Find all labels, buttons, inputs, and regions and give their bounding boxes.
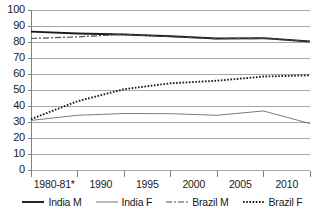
x-tick-label: 2010 (252, 179, 322, 190)
legend-swatch-dotted-icon (243, 197, 265, 207)
y-tick-label: 10 (1, 148, 25, 159)
legend-item-india-m[interactable]: India M (22, 197, 81, 208)
y-tick-label: 30 (1, 116, 25, 127)
axis-lines (28, 10, 31, 176)
legend-label: India F (122, 197, 153, 208)
y-tick-label: 20 (1, 132, 25, 143)
x-axis-ticks (31, 171, 310, 177)
y-tick-label: 50 (1, 84, 25, 95)
y-tick-label: 100 (1, 4, 25, 15)
legend-label: India M (48, 197, 81, 208)
y-tick-label: 70 (1, 52, 25, 63)
legend-swatch-solid-thin-icon (96, 197, 118, 207)
y-tick-label: 0 (1, 164, 25, 175)
y-tick-label: 80 (1, 36, 25, 47)
legend-label: Brazil M (192, 197, 228, 208)
data-series-group (31, 32, 310, 124)
legend-label: Brazil F (269, 197, 303, 208)
legend-item-brazil-f[interactable]: Brazil F (243, 197, 303, 208)
y-tick-label: 60 (1, 68, 25, 79)
legend-item-india-f[interactable]: India F (96, 197, 153, 208)
y-tick-label: 40 (1, 100, 25, 111)
y-tick-label: 90 (1, 20, 25, 31)
line-chart: 1009080706050403020100 1980-81*199019952… (0, 0, 325, 212)
legend-swatch-dash-dot-icon (166, 197, 188, 207)
legend-swatch-solid-thick-icon (22, 197, 44, 207)
chart-legend: India MIndia FBrazil MBrazil F (0, 192, 325, 212)
legend-item-brazil-m[interactable]: Brazil M (166, 197, 228, 208)
